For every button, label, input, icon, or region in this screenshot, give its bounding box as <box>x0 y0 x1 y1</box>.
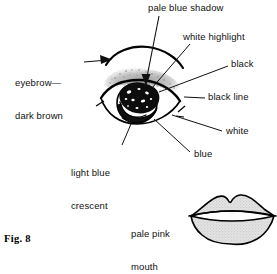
label-pale-pink-mouth-line2: mouth <box>131 261 170 272</box>
dark-pupil-blob-icon <box>119 83 159 113</box>
arrowhead-eyebrow <box>100 55 112 64</box>
label-eyebrow-line1: eyebrow— <box>15 77 63 88</box>
label-light-blue-crescent-line1: light blue <box>71 167 110 178</box>
label-light-blue-crescent-line2: crescent <box>71 200 110 211</box>
label-blue: blue <box>194 148 212 159</box>
label-white-highlight: white highlight <box>183 31 245 42</box>
label-black-line: black line <box>208 91 249 102</box>
label-white: white <box>226 125 249 136</box>
label-black: black <box>231 58 254 69</box>
eye-illustration <box>96 47 185 124</box>
lips-illustration <box>189 195 276 244</box>
figure-caption: Fig. 8 <box>4 233 31 244</box>
label-pale-blue-shadow: pale blue shadow <box>148 2 224 13</box>
label-eyebrow-dark-brown: eyebrow— dark brown <box>15 55 63 143</box>
leader-black-line <box>184 97 205 98</box>
outer-corner-tick-icon <box>178 106 185 112</box>
leader-blue <box>154 119 190 152</box>
label-eyebrow-line2: dark brown <box>15 110 63 121</box>
lower-lip-icon <box>191 216 274 244</box>
label-pale-pink-mouth: pale pink mouth <box>131 206 170 274</box>
label-pale-pink-mouth-line1: pale pink <box>131 228 170 239</box>
leader-white <box>172 115 222 131</box>
label-light-blue-crescent: light blue crescent <box>71 145 110 233</box>
